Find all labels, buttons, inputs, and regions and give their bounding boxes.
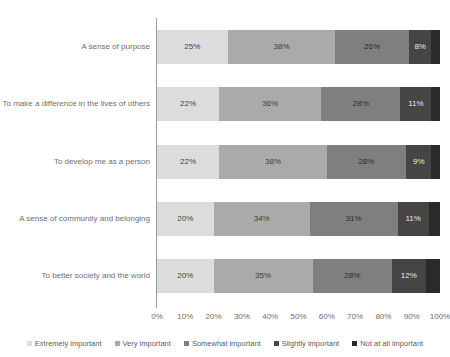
- axis-tick-label: 70%: [347, 312, 363, 321]
- segment-value-label: 20%: [177, 272, 193, 280]
- segment-value-label: 28%: [353, 100, 369, 108]
- bar-segment[interactable]: [429, 202, 440, 236]
- axis-tick-label: 20%: [206, 312, 222, 321]
- bar-segment[interactable]: 28%: [327, 145, 406, 179]
- segment-value-label: 35%: [255, 272, 271, 280]
- segment-value-label: 22%: [180, 100, 196, 108]
- segment-value-label: 11%: [405, 215, 420, 223]
- bar-segment[interactable]: [431, 145, 439, 179]
- bar-segment[interactable]: 36%: [219, 87, 321, 121]
- bar-row: 22%38%28%9%: [157, 145, 440, 179]
- segment-value-label: 26%: [364, 43, 380, 51]
- segment-value-label: 28%: [344, 272, 360, 280]
- legend-swatch-icon: [27, 341, 32, 346]
- axis-tick-label: 30%: [234, 312, 250, 321]
- axis-tick-label: 100%: [430, 312, 450, 321]
- segment-value-label: 20%: [177, 215, 193, 223]
- segment-value-label: 38%: [274, 43, 290, 51]
- bar-segment[interactable]: [426, 259, 440, 293]
- bar-segment[interactable]: [431, 30, 439, 64]
- bar-segment[interactable]: 11%: [398, 202, 429, 236]
- bar-segment[interactable]: 31%: [310, 202, 398, 236]
- legend-item[interactable]: Not at all important: [352, 339, 423, 348]
- segment-value-label: 11%: [408, 100, 423, 108]
- chart-title: [0, 0, 450, 12]
- bar-segment[interactable]: 34%: [214, 202, 310, 236]
- segment-value-label: 8%: [414, 43, 426, 51]
- value-axis-ticks: 0%10%20%30%40%50%60%70%80%90%100%: [157, 312, 440, 324]
- axis-tick-label: 90%: [404, 312, 420, 321]
- bar-segment[interactable]: 28%: [313, 259, 392, 293]
- legend-label: Very important: [123, 339, 171, 348]
- bar-segment[interactable]: 11%: [400, 87, 431, 121]
- bar-segment[interactable]: 28%: [321, 87, 400, 121]
- legend-swatch-icon: [115, 341, 120, 346]
- legend-item[interactable]: Very important: [115, 339, 171, 348]
- axis-tick-label: 10%: [177, 312, 193, 321]
- bar-segment[interactable]: 12%: [392, 259, 426, 293]
- plot-area: 25%38%26%8%22%36%28%11%22%38%28%9%20%34%…: [157, 18, 440, 305]
- bar-segment[interactable]: 35%: [214, 259, 313, 293]
- legend-item[interactable]: Somewhat important: [184, 339, 261, 348]
- bar-segment[interactable]: 22%: [157, 87, 219, 121]
- bar-row: 22%36%28%11%: [157, 87, 440, 121]
- legend-label: Not at all important: [360, 339, 423, 348]
- chart-legend: Extremely importantVery importantSomewha…: [0, 339, 450, 348]
- legend-item[interactable]: Slightly important: [274, 339, 340, 348]
- bar-segment[interactable]: [431, 87, 439, 121]
- bar-row: 25%38%26%8%: [157, 30, 440, 64]
- axis-tick-label: 60%: [319, 312, 335, 321]
- segment-value-label: 34%: [254, 215, 270, 223]
- bar-segment[interactable]: 25%: [157, 30, 228, 64]
- bar-segment[interactable]: 8%: [409, 30, 432, 64]
- segment-value-label: 36%: [262, 100, 278, 108]
- legend-label: Extremely important: [35, 339, 102, 348]
- segment-value-label: 38%: [265, 158, 281, 166]
- bar-row: 20%35%28%12%: [157, 259, 440, 293]
- bar-segment[interactable]: 20%: [157, 202, 214, 236]
- legend-label: Somewhat important: [192, 339, 261, 348]
- axis-tick-label: 0%: [151, 312, 163, 321]
- segment-value-label: 22%: [180, 158, 196, 166]
- legend-swatch-icon: [184, 341, 189, 346]
- segment-value-label: 9%: [413, 158, 425, 166]
- segment-value-label: 12%: [401, 272, 417, 280]
- axis-tick-label: 50%: [290, 312, 306, 321]
- bar-segment[interactable]: 20%: [157, 259, 214, 293]
- bar-row: 20%34%31%11%: [157, 202, 440, 236]
- legend-label: Slightly important: [282, 339, 340, 348]
- axis-tick-label: 80%: [375, 312, 391, 321]
- category-label: To make a difference in the lives of oth…: [0, 99, 150, 109]
- legend-item[interactable]: Extremely important: [27, 339, 102, 348]
- category-label: To better society and the world: [0, 271, 150, 281]
- category-label: A sense of community and belonging: [0, 214, 150, 224]
- category-label: A sense of purpose: [0, 42, 150, 52]
- legend-swatch-icon: [274, 341, 279, 346]
- bar-segment[interactable]: 9%: [406, 145, 431, 179]
- segment-value-label: 28%: [358, 158, 374, 166]
- bar-segment[interactable]: 26%: [335, 30, 409, 64]
- category-label: To develop me as a person: [0, 157, 150, 167]
- stacked-bar-chart: 25%38%26%8%22%36%28%11%22%38%28%9%20%34%…: [0, 0, 450, 357]
- bar-segment[interactable]: 22%: [157, 145, 219, 179]
- segment-value-label: 25%: [184, 43, 200, 51]
- bar-segment[interactable]: 38%: [228, 30, 336, 64]
- segment-value-label: 31%: [346, 215, 362, 223]
- legend-swatch-icon: [352, 341, 357, 346]
- axis-tick-label: 40%: [262, 312, 278, 321]
- bar-segment[interactable]: 38%: [219, 145, 327, 179]
